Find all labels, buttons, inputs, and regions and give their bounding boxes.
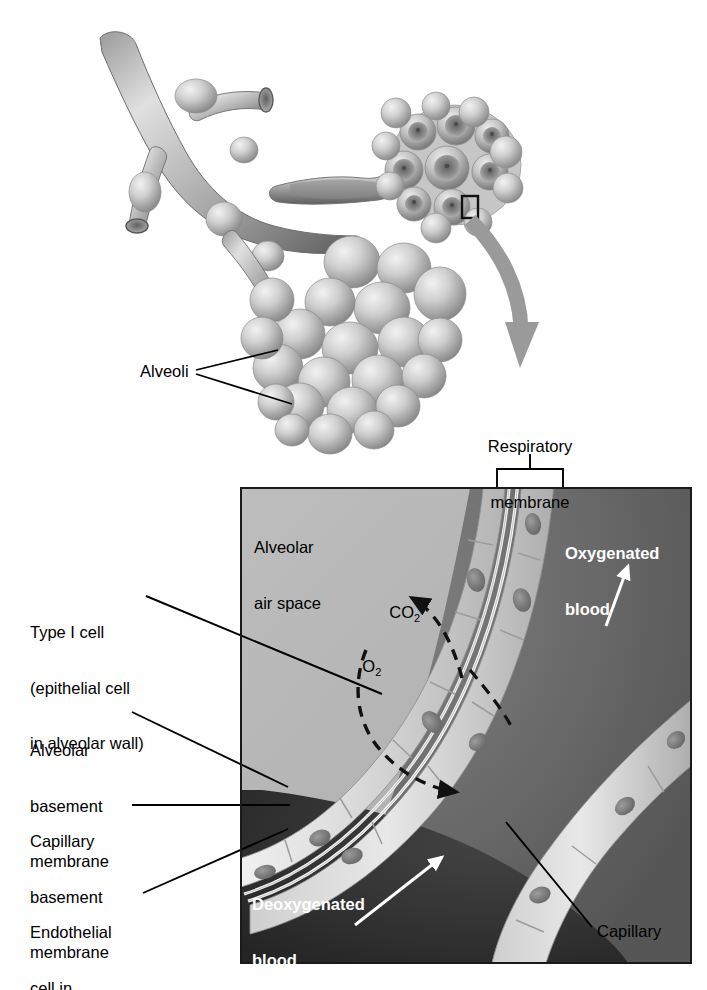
oxygenated-blood-line1: Oxygenated	[565, 544, 659, 563]
alveolus-closed	[459, 97, 489, 127]
alveolus-closed	[490, 136, 522, 168]
alveolus	[241, 317, 283, 359]
label-alveoli: Alveoli	[140, 362, 189, 381]
deoxygenated-blood-line2: blood	[252, 951, 365, 970]
alveolus	[275, 414, 309, 446]
co2-subscript: 2	[414, 612, 420, 624]
endothelial-line1: Endothelial	[30, 923, 124, 942]
endothelial-line2: cell in	[30, 979, 124, 990]
label-co2: CO2	[371, 584, 420, 646]
label-deoxygenated-blood: Deoxygenated blood	[252, 858, 365, 990]
alveolar-bud	[206, 202, 242, 236]
alveolus-closed	[372, 132, 400, 160]
co2-text: CO	[389, 603, 414, 621]
alveolar-air-space-line1: Alveolar	[254, 538, 321, 557]
alveolus-closed	[493, 173, 523, 203]
callout-capillary: Capillary	[597, 922, 661, 941]
alveolar-bud	[175, 79, 217, 113]
alveolar-bud	[230, 137, 258, 163]
alveolar-bm-line1: Alveolar	[30, 741, 109, 760]
deoxygenated-blood-line1: Deoxygenated	[252, 895, 365, 914]
alveolus-closed	[381, 98, 411, 128]
alveolar-bud	[129, 172, 161, 212]
label-alveolar-air-space: Alveolar air space	[254, 501, 321, 649]
label-oxygenated-blood: Oxygenated blood	[565, 507, 659, 655]
alveolus-open	[425, 146, 469, 190]
alveolar-air-space-line2: air space	[254, 594, 321, 613]
o2-subscript: 2	[375, 666, 381, 678]
branch-cut-end-upper	[259, 88, 273, 112]
callout-endothelial-cell: Endothelial cell in capillary wall	[30, 886, 124, 990]
type-i-cell-line1: Type I cell	[30, 623, 144, 642]
alveolus-closed	[376, 172, 404, 200]
alveolar-sac-cutaway	[372, 92, 523, 243]
capillary-bm-line1: Capillary	[30, 832, 109, 851]
alveolus	[308, 414, 352, 454]
type-i-cell-line2: (epithelial cell	[30, 679, 144, 698]
oxygenated-blood-line2: blood	[565, 600, 659, 619]
figure-root: Alveoli Respiratory membrane Alveolar ai…	[0, 0, 707, 990]
alveolus	[354, 411, 394, 449]
o2-text: O	[362, 657, 375, 675]
respiratory-membrane-line1: Respiratory	[455, 437, 605, 456]
branch-cut-end-lower	[126, 219, 148, 233]
label-o2: O2	[344, 638, 381, 700]
alveolus-closed	[422, 92, 450, 120]
magnify-arrow	[470, 220, 539, 368]
alveolus-closed	[421, 213, 451, 243]
alveolar-duct-lumen-shading	[290, 180, 379, 199]
alveolus	[250, 278, 294, 322]
alveolus	[414, 267, 466, 321]
